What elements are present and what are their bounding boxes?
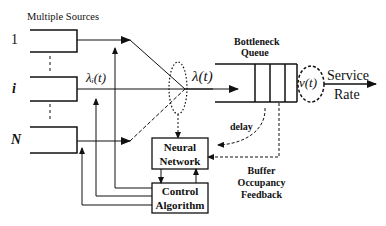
neural-line-1: Neural bbox=[152, 140, 208, 154]
rate-label: Rate bbox=[334, 88, 360, 102]
multiple-sources-label: Multiple Sources bbox=[27, 12, 99, 23]
lambda-label: λ(t) bbox=[192, 69, 213, 84]
bottleneck-label: Bottleneck bbox=[234, 37, 280, 47]
neural-line-2: Network bbox=[152, 154, 208, 168]
delay-label: delay bbox=[230, 122, 253, 132]
neural-network-label: Neural Network bbox=[152, 140, 208, 168]
buffer-label: Buffer bbox=[239, 166, 284, 176]
service-label: Service bbox=[327, 69, 369, 83]
occupancy-label: Occupancy bbox=[229, 178, 294, 188]
source-1-block bbox=[30, 30, 77, 52]
control-line-2: Algorithm bbox=[152, 198, 208, 212]
source-i-block bbox=[30, 77, 77, 101]
service-symbol: v(t) bbox=[299, 76, 317, 89]
source-n-block bbox=[30, 127, 77, 153]
control-algorithm-label: Control Algorithm bbox=[152, 184, 208, 212]
bottleneck-queue bbox=[215, 64, 297, 102]
source-n-label: N bbox=[11, 133, 21, 147]
control-line-1: Control bbox=[152, 184, 208, 198]
source-i-label: i bbox=[12, 82, 16, 96]
source-1-label: 1 bbox=[11, 33, 18, 47]
feedback-label: Feedback bbox=[229, 190, 294, 200]
queue-label: Queue bbox=[241, 48, 269, 58]
lambda-i-label: λᵢ(t) bbox=[86, 71, 106, 84]
